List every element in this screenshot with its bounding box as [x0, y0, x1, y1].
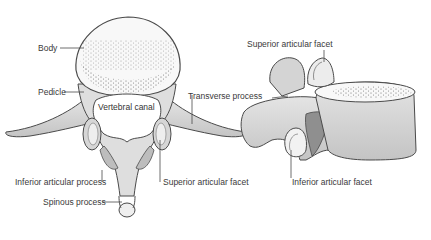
label-superior-articular-facet-left: Superior articular facet — [163, 177, 249, 187]
label-pedicle: Pedicle — [38, 87, 66, 97]
label-body: Body — [38, 43, 57, 53]
lateral-view — [241, 50, 416, 178]
label-lateral-inferior-articular-facet: Inferior articular facet — [292, 177, 372, 187]
label-transverse-process: Transverse process — [188, 91, 262, 101]
superior-articular-process — [270, 58, 305, 96]
label-vertebral-canal: Vertebral canal — [98, 102, 155, 112]
label-inferior-articular-process: Inferior articular process — [15, 177, 106, 187]
lateral-inferior-facet — [285, 128, 307, 157]
label-lateral-superior-articular-facet: Superior articular facet — [247, 39, 333, 49]
spinous-process-tip — [119, 203, 135, 217]
label-spinous-process: Spinous process — [43, 197, 106, 207]
